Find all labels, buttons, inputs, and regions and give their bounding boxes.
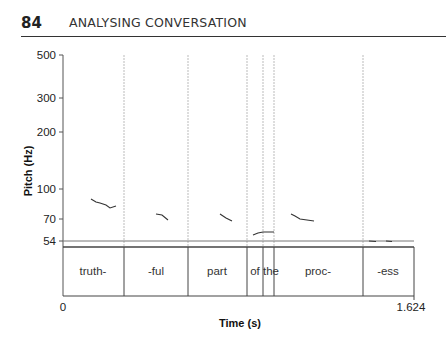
y-tick-54: 54: [43, 235, 56, 247]
y-tick-200: 200: [37, 126, 56, 138]
segment-label: -ess: [377, 265, 399, 277]
segment-label: part: [207, 265, 228, 277]
contour-truth: [91, 199, 116, 208]
segment-label: -ful: [148, 265, 164, 277]
contour-proc: [291, 214, 314, 221]
segment-label: truth-: [80, 265, 107, 277]
pitch-contours: [91, 199, 392, 242]
segment-label: proc-: [305, 265, 331, 277]
pitch-chart: 500 300 200 100 70 54 Pitch (Hz) truth- …: [0, 0, 446, 341]
y-tick-labels: 500 300 200 100 70 54: [37, 49, 57, 247]
y-tick-100: 100: [37, 183, 56, 195]
y-tick-500: 500: [37, 49, 56, 61]
x-tick-start: 0: [60, 301, 66, 313]
y-tick-70: 70: [43, 213, 56, 225]
segment-tier: [63, 247, 414, 300]
contour-ess-1: [369, 241, 376, 242]
x-axis-title: Time (s): [219, 317, 261, 329]
segment-label: of: [250, 265, 260, 277]
contour-part: [220, 214, 232, 221]
contour-ful: [156, 214, 168, 220]
y-tick-300: 300: [37, 92, 56, 104]
y-ticks: [59, 55, 63, 241]
y-axis-title: Pitch (Hz): [22, 145, 34, 196]
segment-boundaries: [124, 55, 363, 247]
contour-ess-2: [386, 241, 392, 242]
x-tick-end: 1.624: [397, 301, 426, 313]
segment-label: the: [263, 265, 279, 277]
segment-labels: truth- -ful part of the proc- -ess: [80, 265, 400, 277]
